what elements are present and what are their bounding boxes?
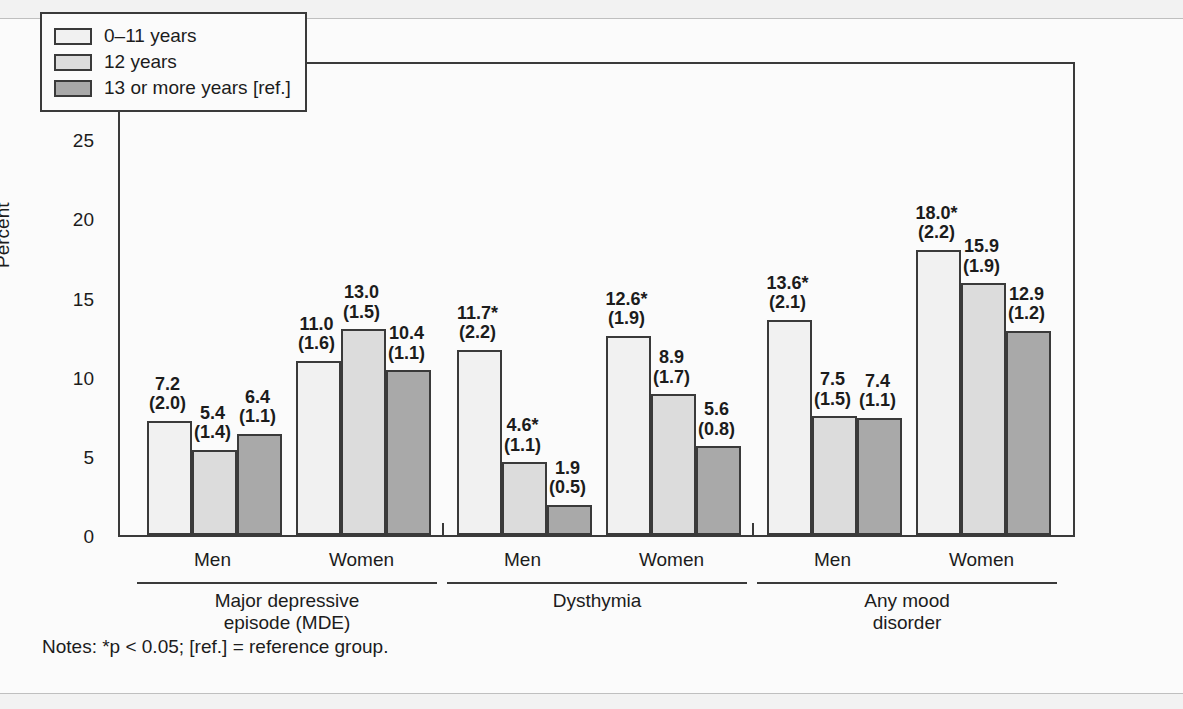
group-label: Any mooddisorder [757, 590, 1057, 635]
bar-value: 7.2 [131, 375, 204, 394]
group-rule [137, 582, 437, 584]
bar-standard-error: (1.9) [945, 257, 1018, 276]
x-sub-label: Women [292, 549, 432, 571]
bar-value: 13.0 [325, 283, 398, 302]
bar-standard-error: (1.9) [590, 309, 663, 328]
bar [696, 446, 741, 535]
legend-label: 0–11 years [104, 25, 197, 47]
bar-value: 8.9 [635, 348, 708, 367]
bar-value: 15.9 [945, 237, 1018, 256]
bar-value: 18.0* [900, 204, 973, 223]
legend-swatch [54, 28, 92, 45]
figure-panel: Percent 051015202530 7.2(2.0)5.4(1.4)6.4… [0, 0, 1183, 709]
bar-standard-error: (0.5) [531, 478, 604, 497]
bar-standard-error: (1.2) [990, 304, 1063, 323]
bar [767, 320, 812, 535]
legend: 0–11 years12 years13 or more years [ref.… [40, 12, 307, 112]
bar [812, 416, 857, 535]
bar-standard-error: (1.1) [370, 344, 443, 363]
group-label-line: disorder [757, 612, 1057, 634]
bar-value-label: 12.6*(1.9) [590, 290, 663, 329]
bar-value: 6.4 [221, 388, 294, 407]
y-tick-label: 20 [34, 209, 94, 231]
bar-value-label: 10.4(1.1) [370, 324, 443, 363]
y-tick-label: 0 [34, 526, 94, 548]
legend-item: 0–11 years [54, 23, 291, 49]
bar-value-label: 7.4(1.1) [841, 372, 914, 411]
x-sub-label: Men [453, 549, 593, 571]
group-rule [447, 582, 747, 584]
bar [857, 418, 902, 535]
bar-value: 7.4 [841, 372, 914, 391]
y-tick-label: 15 [34, 289, 94, 311]
bar-value-label: 1.9(0.5) [531, 459, 604, 498]
legend-label: 12 years [104, 51, 177, 73]
group-separator-tick [442, 523, 444, 537]
bar-value-label: 11.7*(2.2) [441, 304, 514, 343]
bottom-divider [0, 693, 1183, 694]
bar-value-label: 8.9(1.7) [635, 348, 708, 387]
bar-value-label: 13.0(1.5) [325, 283, 398, 322]
bar-standard-error: (2.1) [751, 293, 824, 312]
bar-standard-error: (1.6) [280, 334, 353, 353]
y-tick-label: 10 [34, 368, 94, 390]
bar [192, 450, 237, 536]
bar-value: 12.6* [590, 290, 663, 309]
bar [296, 361, 341, 535]
legend-item: 13 or more years [ref.] [54, 75, 291, 101]
bar-value-label: 15.9(1.9) [945, 237, 1018, 276]
group-separator-tick [752, 523, 754, 537]
group-label-line: Dysthymia [447, 590, 747, 612]
legend-swatch [54, 80, 92, 97]
bar [1006, 331, 1051, 535]
bar-standard-error: (0.8) [680, 420, 753, 439]
x-sub-label: Women [602, 549, 742, 571]
bar-value: 13.6* [751, 274, 824, 293]
group-rule [757, 582, 1057, 584]
bar-standard-error: (1.1) [486, 436, 559, 455]
bar-standard-error: (2.2) [441, 323, 514, 342]
y-axis-label: Percent [0, 203, 14, 268]
bar-value-label: 4.6*(1.1) [486, 416, 559, 455]
bar [386, 370, 431, 535]
legend-label: 13 or more years [ref.] [104, 77, 291, 99]
bar-value-label: 6.4(1.1) [221, 388, 294, 427]
bar-value: 11.7* [441, 304, 514, 323]
group-label-line: Any mood [757, 590, 1057, 612]
bar-value: 1.9 [531, 459, 604, 478]
bar-standard-error: (1.5) [325, 303, 398, 322]
bar-value: 12.9 [990, 285, 1063, 304]
bar-standard-error: (1.1) [841, 391, 914, 410]
group-label: Dysthymia [447, 590, 747, 612]
bar-value: 5.6 [680, 400, 753, 419]
group-label-line: Major depressive [137, 590, 437, 612]
bar-value-label: 5.6(0.8) [680, 400, 753, 439]
legend-swatch [54, 54, 92, 71]
x-sub-label: Women [912, 549, 1052, 571]
bar [547, 505, 592, 535]
bar-value-label: 12.9(1.2) [990, 285, 1063, 324]
legend-item: 12 years [54, 49, 291, 75]
x-sub-label: Men [763, 549, 903, 571]
x-sub-label: Men [143, 549, 283, 571]
bar-standard-error: (1.7) [635, 368, 708, 387]
bar-value: 4.6* [486, 416, 559, 435]
bar [237, 434, 282, 535]
bar [916, 250, 961, 535]
bar-value-label: 13.6*(2.1) [751, 274, 824, 313]
group-label-line: episode (MDE) [137, 612, 437, 634]
y-tick-label: 5 [34, 447, 94, 469]
bar-value: 10.4 [370, 324, 443, 343]
bar-standard-error: (1.1) [221, 407, 294, 426]
notes-text: Notes: *p < 0.05; [ref.] = reference gro… [42, 636, 388, 658]
group-label: Major depressiveepisode (MDE) [137, 590, 437, 635]
y-tick-label: 25 [34, 130, 94, 152]
bottom-band [0, 694, 1183, 709]
